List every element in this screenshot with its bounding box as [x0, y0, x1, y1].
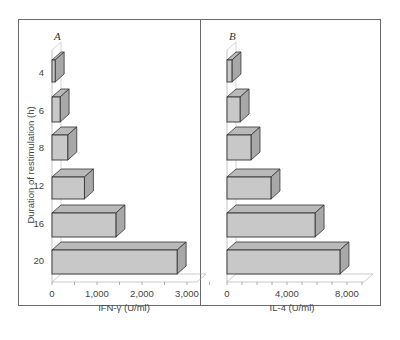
- panel-a-tick-2000: 2,000: [130, 288, 154, 299]
- panel-b-tick-0: 0: [224, 288, 229, 299]
- panel-b-bars: [227, 42, 373, 282]
- panel-a: A 0 1,000 2,000 3,000 IFN-γ (U/ml) 4 6 8…: [33, 30, 209, 313]
- bar-16h: [52, 205, 125, 237]
- panel-b-tick-8000: 8,000: [335, 288, 359, 299]
- bar-4h: [227, 52, 241, 82]
- bar-12h: [52, 169, 93, 199]
- chart-canvas: Duration of restimulation (h) A 0 1,000 …: [0, 0, 400, 340]
- bar-8h: [227, 127, 260, 160]
- panel-a-tick-0: 0: [49, 288, 54, 299]
- panel-a-bars: [52, 42, 206, 282]
- back-wall-top: [52, 42, 61, 50]
- category-label-8h: 8: [39, 142, 44, 153]
- bar-16h: [227, 205, 324, 237]
- bar-12h: [227, 169, 280, 199]
- floor-plane: [52, 274, 206, 282]
- back-wall-top: [227, 42, 236, 50]
- bar-4h: [52, 52, 64, 82]
- panel-b-x-axis: [227, 282, 362, 285]
- panel-b-label: B: [229, 30, 236, 42]
- category-label-4h: 4: [39, 67, 44, 78]
- bar-6h: [52, 89, 69, 122]
- bar-8h: [52, 127, 77, 160]
- category-label-6h: 6: [39, 105, 44, 116]
- bar-20h: [227, 242, 349, 274]
- panel-b-tick-4000: 4,000: [275, 288, 299, 299]
- category-label-20h: 20: [33, 255, 44, 266]
- floor-plane: [227, 274, 373, 282]
- panel-a-x-axis-title: IFN-γ (U/ml): [98, 302, 150, 313]
- y-axis-title: Duration of restimulation (h): [25, 106, 36, 223]
- category-label-16h: 16: [33, 218, 44, 229]
- bar-6h: [227, 89, 249, 122]
- panel-a-label: A: [53, 30, 61, 42]
- panel-a-x-axis: [52, 282, 210, 285]
- panel-b: B 0 4,000 8,000 IL-4 (U/ml): [224, 30, 373, 313]
- panel-b-x-axis-title: IL-4 (U/ml): [270, 302, 315, 313]
- category-label-12h: 12: [33, 180, 44, 191]
- panel-a-tick-1000: 1,000: [85, 288, 109, 299]
- bar-20h: [52, 242, 186, 274]
- panel-a-tick-3000: 3,000: [175, 288, 199, 299]
